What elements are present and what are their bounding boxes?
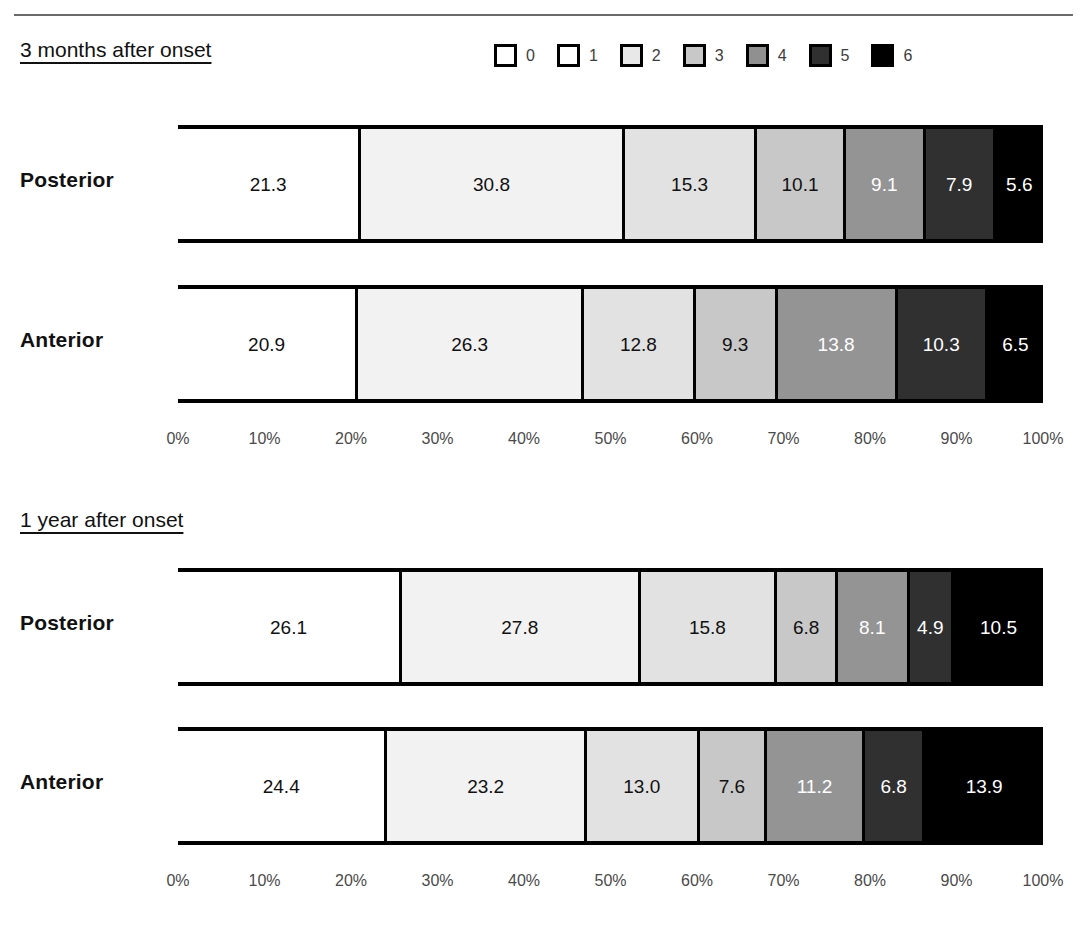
x-axis-tick-label: 10% [248, 872, 280, 890]
x-axis-tick-label: 90% [940, 430, 972, 448]
bar-row-label: Posterior [20, 125, 114, 235]
bar-track: 24.423.213.07.611.26.813.9 [178, 727, 1043, 845]
bar-segment: 30.8 [358, 129, 622, 239]
legend-swatch-icon [683, 44, 706, 67]
bar-segment: 23.2 [384, 731, 583, 841]
bar-segment-value: 13.9 [966, 777, 1003, 796]
bar-segment-value: 10.1 [782, 175, 819, 194]
legend-item: 6 [871, 44, 912, 67]
bar-segment-value: 24.4 [263, 777, 300, 796]
bar-segment: 7.9 [923, 129, 993, 239]
bar-segment-value: 13.0 [623, 777, 660, 796]
bar-segment: 24.4 [178, 731, 384, 841]
bar-segment: 10.3 [895, 289, 985, 399]
bar-track: 20.926.312.89.313.810.36.5 [178, 285, 1043, 403]
x-axis-tick-label: 0% [166, 430, 189, 448]
bar-segment-value: 9.1 [871, 175, 897, 194]
bar-segment-value: 20.9 [248, 335, 285, 354]
bar-segment-value: 9.3 [722, 335, 748, 354]
bar-row-label: Anterior [20, 727, 103, 837]
bar-segment-value: 11.2 [797, 777, 833, 796]
bar-segment-value: 6.8 [793, 618, 819, 637]
bar-segment-value: 4.9 [917, 618, 943, 637]
bar-track: 26.127.815.86.88.14.910.5 [178, 568, 1043, 686]
header-rule [14, 14, 1073, 16]
bar-segment-value: 27.8 [501, 618, 538, 637]
bar-segment-value: 21.3 [250, 175, 287, 194]
bar-segment: 21.3 [178, 129, 358, 239]
bar-segment: 8.1 [835, 572, 907, 682]
bar-segment-value: 7.9 [946, 175, 972, 194]
x-axis-tick-label: 70% [767, 430, 799, 448]
bar-segment: 13.8 [775, 289, 895, 399]
x-axis-tick-label: 40% [508, 872, 540, 890]
x-axis-tick-label: 50% [594, 872, 626, 890]
bar-segment: 26.1 [178, 572, 399, 682]
x-axis-tick-label: 30% [421, 872, 453, 890]
bar-segment: 20.9 [178, 289, 355, 399]
bar-segment-value: 5.6 [1006, 175, 1032, 194]
bar-segment: 6.8 [862, 731, 923, 841]
legend: 0123456 [494, 44, 912, 67]
panel-title: 1 year after onset [20, 508, 183, 532]
bar-segment: 15.3 [622, 129, 754, 239]
bar-segment: 27.8 [399, 572, 637, 682]
bar-segment: 4.9 [907, 572, 952, 682]
bar-segment: 9.3 [693, 289, 775, 399]
legend-item-label: 6 [903, 47, 912, 65]
x-axis: 0%10%20%30%40%50%60%70%80%90%100% [178, 430, 1043, 452]
legend-item-label: 3 [715, 47, 724, 65]
bar-segment: 7.6 [697, 731, 764, 841]
bar-row: Anterior24.423.213.07.611.26.813.9 [0, 727, 1087, 837]
bar-row-label: Posterior [20, 568, 114, 678]
legend-swatch-icon [871, 44, 894, 67]
x-axis: 0%10%20%30%40%50%60%70%80%90%100% [178, 872, 1043, 894]
legend-swatch-icon [746, 44, 769, 67]
x-axis-tick-label: 50% [594, 430, 626, 448]
bar-segment: 6.5 [985, 289, 1043, 399]
legend-item: 4 [746, 44, 787, 67]
bar-segment: 6.8 [774, 572, 835, 682]
bar-segment: 13.9 [922, 731, 1043, 841]
x-axis-tick-label: 30% [421, 430, 453, 448]
bar-segment-value: 23.2 [467, 777, 504, 796]
x-axis-tick-label: 80% [854, 872, 886, 890]
bar-segment-value: 12.8 [620, 335, 657, 354]
bar-track: 21.330.815.310.19.17.95.6 [178, 125, 1043, 243]
x-axis-tick-label: 100% [1023, 872, 1064, 890]
bar-segment: 10.5 [951, 572, 1043, 682]
legend-swatch-icon [620, 44, 643, 67]
x-axis-tick-label: 70% [767, 872, 799, 890]
bar-segment: 5.6 [993, 129, 1043, 239]
bar-segment-value: 26.3 [451, 335, 488, 354]
bar-segment: 9.1 [843, 129, 923, 239]
bar-segment: 13.0 [584, 731, 697, 841]
bar-segment-value: 8.1 [859, 618, 885, 637]
bar-segment-value: 15.8 [689, 618, 726, 637]
x-axis-tick-label: 60% [681, 430, 713, 448]
bar-segment-value: 13.8 [818, 335, 855, 354]
legend-swatch-icon [494, 44, 517, 67]
x-axis-tick-label: 80% [854, 430, 886, 448]
legend-item: 5 [809, 44, 850, 67]
bar-row: Anterior20.926.312.89.313.810.36.5 [0, 285, 1087, 395]
bar-segment-value: 30.8 [473, 175, 510, 194]
bar-segment: 10.1 [754, 129, 842, 239]
bar-segment-value: 10.5 [980, 618, 1017, 637]
x-axis-tick-label: 90% [940, 872, 972, 890]
bar-segment: 26.3 [355, 289, 581, 399]
bar-segment-value: 15.3 [671, 175, 708, 194]
bar-segment: 12.8 [581, 289, 693, 399]
legend-item-label: 2 [652, 47, 661, 65]
legend-swatch-icon [557, 44, 580, 67]
legend-item-label: 4 [778, 47, 787, 65]
bar-segment: 11.2 [764, 731, 862, 841]
legend-item-label: 1 [589, 47, 598, 65]
bar-row: Posterior21.330.815.310.19.17.95.6 [0, 125, 1087, 235]
x-axis-tick-label: 0% [166, 872, 189, 890]
x-axis-tick-label: 20% [335, 430, 367, 448]
x-axis-tick-label: 10% [248, 430, 280, 448]
legend-swatch-icon [809, 44, 832, 67]
x-axis-tick-label: 100% [1023, 430, 1064, 448]
legend-item: 1 [557, 44, 598, 67]
